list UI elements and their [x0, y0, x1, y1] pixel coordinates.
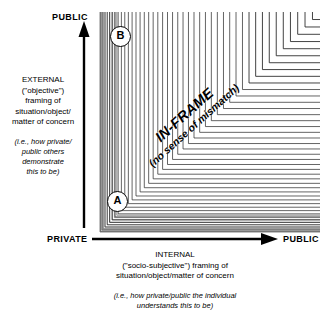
axis-arrows — [79, 21, 279, 245]
y-caption-l0: EXTERNAL — [2, 75, 84, 86]
x-caption-i0: (i.e., how private/public the individual — [60, 291, 290, 301]
y-caption-l3: situation/object/ — [2, 107, 84, 118]
y-caption-i3: this to be) — [2, 167, 84, 177]
axis-label-vertical-top: PUBLIC — [52, 12, 88, 22]
y-caption-l2: framing of — [2, 96, 84, 107]
vertical-axis-caption: EXTERNAL ("objective") framing of situat… — [2, 75, 84, 177]
x-caption-i1: understands this to be) — [60, 301, 290, 310]
diagram-canvas: PUBLIC PRIVATE PUBLIC EXTERNAL ("objecti… — [0, 0, 326, 310]
marker-a[interactable]: A — [107, 191, 128, 212]
marker-b[interactable]: B — [110, 26, 131, 47]
axis-label-horizontal-right: PUBLIC — [283, 234, 319, 244]
x-caption-l1: ("socio-subjective") framing of — [60, 261, 290, 272]
x-caption-l0: INTERNAL — [60, 250, 290, 261]
horizontal-axis-caption: INTERNAL ("socio-subjective") framing of… — [60, 250, 290, 310]
y-caption-i2: demonstrate — [2, 157, 84, 167]
y-caption-i1: public others — [2, 147, 84, 157]
y-caption-l1: ("objective") — [2, 86, 84, 97]
x-caption-l2: situation/object/matter of concern — [60, 271, 290, 282]
axis-label-horizontal-left: PRIVATE — [47, 234, 87, 244]
y-caption-l4: matter of concern — [2, 117, 84, 128]
y-caption-i0: (i.e., how private/ — [2, 137, 84, 147]
